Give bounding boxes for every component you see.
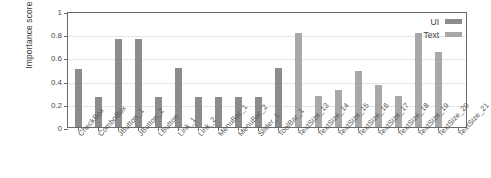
y-axis-tick-label: 0 xyxy=(32,124,62,133)
y-axis-tick-label: 0.6 xyxy=(32,54,62,63)
legend-label: Text xyxy=(423,30,439,40)
legend-swatch xyxy=(445,19,462,24)
legend: UIText xyxy=(423,15,462,41)
y-axis-tick-label: 0.8 xyxy=(32,31,62,40)
y-axis-tick-label: 0.4 xyxy=(32,77,62,86)
y-axis-tick xyxy=(64,129,68,130)
y-axis-tick xyxy=(64,106,68,107)
gridline xyxy=(68,59,466,60)
legend-swatch xyxy=(445,32,462,37)
y-axis-tick-label: 0.2 xyxy=(32,100,62,109)
y-axis-tick xyxy=(64,83,68,84)
gridline xyxy=(68,83,466,84)
legend-item: UI xyxy=(423,15,462,28)
legend-label: UI xyxy=(431,17,440,27)
legend-item: Text xyxy=(423,28,462,41)
y-axis-tick-label: 1 xyxy=(32,8,62,17)
gridline xyxy=(68,36,466,37)
y-axis-tick xyxy=(64,36,68,37)
bar xyxy=(75,69,82,127)
y-axis-tick xyxy=(64,13,68,14)
y-axis-tick xyxy=(64,59,68,60)
